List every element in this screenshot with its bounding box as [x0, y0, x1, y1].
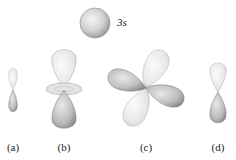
label-c: (c): [140, 141, 152, 153]
orbital-a: [9, 68, 18, 112]
orbital-b: [46, 50, 82, 129]
orbital-3s-sphere: [80, 8, 110, 38]
orbital-d: [210, 63, 226, 123]
orbital-c: [108, 50, 184, 126]
label-d: (d): [212, 141, 225, 153]
label-b: (b): [58, 141, 71, 153]
sphere-label: 3s: [117, 16, 127, 28]
label-a: (a): [7, 141, 19, 153]
